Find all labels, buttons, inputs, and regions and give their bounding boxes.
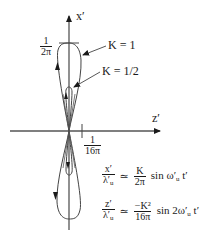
direction-arrow-icon <box>55 62 60 70</box>
z-tick-label: 1 16π <box>84 135 101 156</box>
curve-label-k1: K = 1 <box>108 40 135 51</box>
x-tick-label: 1 2π <box>40 36 52 57</box>
x-axis-label: x′ <box>76 11 85 22</box>
leader-k1 <box>83 46 106 55</box>
equation-z: z′λ′u ≃ −K²16π sin 2ω′u t′ <box>100 199 199 223</box>
direction-arrow-icon <box>64 92 68 99</box>
z-axis-label: z′ <box>152 113 160 124</box>
curve-label-k12: K = 1/2 <box>102 66 139 77</box>
equation-x: x′λ′u ≃ K2π sin ω′u t′ <box>100 164 188 188</box>
leader-k12 <box>74 72 100 87</box>
